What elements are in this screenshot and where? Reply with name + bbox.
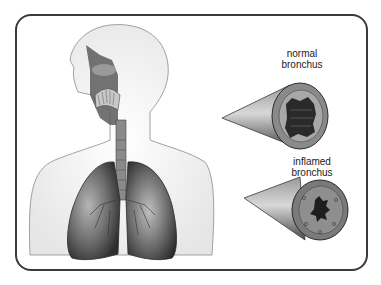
label-line: normal <box>262 48 342 59</box>
inflamed-bronchus-label: inflamed bronchus <box>272 156 352 178</box>
label-line: bronchus <box>272 167 352 178</box>
inflamed-bronchus-illustration <box>244 177 348 240</box>
label-line: inflamed <box>272 156 352 167</box>
normal-bronchus-label: normal bronchus <box>262 48 342 70</box>
normal-bronchus-illustration <box>222 83 328 149</box>
illustration <box>0 0 381 285</box>
label-line: bronchus <box>262 59 342 70</box>
